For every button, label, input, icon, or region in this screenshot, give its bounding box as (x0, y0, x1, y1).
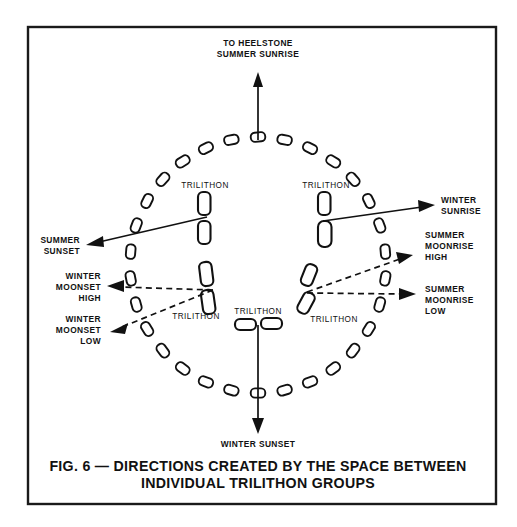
label-trilithon-nw: TRILITHON (181, 181, 229, 190)
trilithon-ne-stone-2 (318, 221, 332, 247)
label-winter-sunset: WINTER SUNSET (221, 439, 296, 449)
label-winter-moonset-low-line1: WINTER (66, 314, 101, 324)
label-summer-sunset-line1: SUMMER (40, 235, 80, 245)
sarsen-stone (223, 134, 239, 146)
sarsen-stone (379, 270, 391, 286)
figure-caption-line2: INDIVIDUAL TRILITHON GROUPS (141, 475, 375, 491)
label-winter-moonset-high-line3: HIGH (78, 293, 101, 303)
label-trilithon-s: TRILITHON (234, 307, 282, 316)
label-summer-moonrise-low-line1: SUMMER (425, 284, 465, 294)
label-trilithon-ne: TRILITHON (302, 181, 350, 190)
label-summer-sunset-line2: SUNSET (44, 246, 81, 256)
figure-container: TO HEELSTONE SUMMER SUNRISE WINTER SUNSE… (0, 0, 517, 527)
label-heelstone-line2: SUMMER SUNRISE (217, 49, 299, 59)
label-heelstone-line1: TO HEELSTONE (223, 38, 293, 48)
label-summer-moonrise-high-line3: HIGH (425, 252, 448, 262)
label-summer-moonrise-high-line1: SUMMER (425, 230, 465, 240)
label-winter-moonset-high-line2: MOONSET (56, 282, 102, 292)
label-winter-moonset-low-line3: LOW (80, 336, 101, 346)
trilithon-nw-stone-2 (198, 221, 211, 244)
label-winter-moonset-high-line1: WINTER (66, 271, 101, 281)
label-trilithon-se: TRILITHON (310, 315, 358, 324)
figure-caption-line1: FIG. 6 — DIRECTIONS CREATED BY THE SPACE… (49, 458, 466, 474)
trilithon-ne-stone-1 (318, 192, 331, 215)
trilithon-sw-stone-1 (199, 261, 214, 286)
stonehenge-plan-diagram: TO HEELSTONE SUMMER SUNRISE WINTER SUNSE… (0, 0, 517, 527)
label-winter-sunrise-line2: SUNRISE (441, 206, 481, 216)
trilithon-s-stone-1 (235, 319, 256, 330)
figure-border (28, 27, 496, 504)
sarsen-stone (125, 270, 137, 286)
trilithon-s-stone-2 (261, 318, 282, 329)
label-summer-moonrise-high-line2: MOONRISE (425, 241, 474, 251)
label-winter-moonset-low-line2: MOONSET (56, 325, 102, 335)
label-summer-moonrise-low-line2: MOONRISE (425, 295, 474, 305)
sarsen-stone (380, 244, 390, 259)
trilithon-sw-stone-2 (200, 289, 216, 315)
label-trilithon-sw: TRILITHON (172, 312, 220, 321)
sarsen-stone (125, 244, 135, 259)
trilithon-nw-stone-1 (198, 192, 211, 215)
sarsen-stone (277, 134, 293, 146)
label-summer-moonrise-low-line3: LOW (425, 306, 446, 316)
label-winter-sunrise-line1: WINTER (441, 195, 476, 205)
